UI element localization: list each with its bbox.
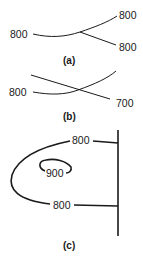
caption-b: (b) (63, 111, 76, 122)
panel-c: 800 900 800 (c) (11, 130, 118, 251)
label-a-lower-right: 800 (119, 41, 137, 53)
contour-line-b-straight (31, 75, 110, 99)
contour-line-a-branch (80, 32, 116, 45)
label-b-left: 800 (9, 86, 27, 98)
label-c-top: 800 (72, 134, 90, 146)
contour-line-a-main (33, 16, 117, 36)
label-c-inner: 900 (46, 167, 64, 179)
caption-c: (c) (63, 240, 75, 251)
label-c-bottom: 800 (53, 199, 71, 211)
panel-a: 800 800 800 (a) (10, 9, 137, 66)
panel-b: 800 700 (b) (9, 71, 134, 122)
label-a-left: 800 (10, 28, 28, 40)
contour-line-c-800-top-right (93, 141, 118, 143)
contour-line-c-800-bottom-right (74, 205, 118, 206)
label-a-upper-right: 800 (119, 9, 137, 21)
contour-diagram: 800 800 800 (a) 800 700 (b) 800 900 800 … (0, 0, 143, 257)
caption-a: (a) (63, 55, 75, 66)
label-b-lower-right: 700 (116, 97, 134, 109)
contour-line-b-curve (33, 71, 116, 94)
